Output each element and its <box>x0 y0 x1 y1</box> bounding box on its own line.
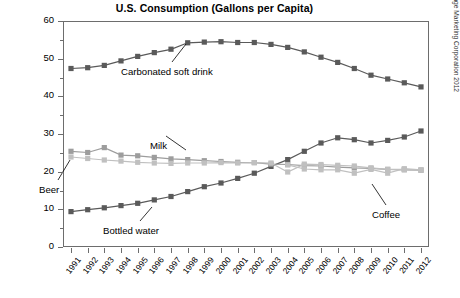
y-axis-minor-tick <box>60 228 63 229</box>
series-annotation: Coffee <box>372 209 400 220</box>
x-axis-tick <box>188 248 189 253</box>
series-annotation: Carbonated soft drink <box>121 66 213 77</box>
series-marker <box>218 180 223 185</box>
series-marker <box>385 76 390 81</box>
series-marker <box>152 160 157 165</box>
series-marker <box>68 154 73 159</box>
series-marker <box>135 54 140 59</box>
series-marker <box>235 160 240 165</box>
y-axis-tick <box>58 21 63 22</box>
x-axis-tick <box>338 248 339 253</box>
series-marker <box>202 40 207 45</box>
series-marker <box>102 157 107 162</box>
series-marker <box>168 156 173 161</box>
series-marker <box>385 171 390 176</box>
y-axis-minor-tick <box>60 153 63 154</box>
series-marker <box>318 55 323 60</box>
annotation-leader-line <box>166 136 186 150</box>
y-axis-label: 10 <box>14 203 54 213</box>
series-marker <box>285 169 290 174</box>
x-axis-tick <box>321 248 322 253</box>
series-annotation: Milk <box>150 140 167 151</box>
annotation-leader-line <box>372 184 386 205</box>
series-marker <box>235 40 240 45</box>
series-marker <box>268 160 273 165</box>
series-marker <box>85 207 90 212</box>
x-axis-tick <box>138 248 139 253</box>
series-marker <box>118 203 123 208</box>
y-axis-minor-tick <box>60 115 63 116</box>
y-axis-label: 0 <box>14 241 54 251</box>
series-marker <box>302 49 307 54</box>
series-marker <box>168 194 173 199</box>
y-axis-label: 40 <box>14 90 54 100</box>
series-marker <box>402 166 407 171</box>
series-marker <box>68 209 73 214</box>
y-axis-minor-tick <box>60 78 63 79</box>
x-axis-tick <box>204 248 205 253</box>
series-marker <box>102 205 107 210</box>
series-marker <box>252 40 257 45</box>
x-axis-tick <box>304 248 305 253</box>
series-marker <box>235 176 240 181</box>
series-marker <box>68 66 73 71</box>
series-marker <box>418 84 423 89</box>
y-axis-tick <box>58 209 63 210</box>
series-marker <box>285 162 290 167</box>
series-marker <box>152 155 157 160</box>
series-marker <box>118 159 123 164</box>
y-axis-label: 60 <box>14 15 54 25</box>
series-marker <box>285 157 290 162</box>
series-marker <box>318 140 323 145</box>
x-axis-tick <box>388 248 389 253</box>
annotation-leader-line <box>58 160 70 180</box>
series-marker <box>352 137 357 142</box>
y-axis-label: 20 <box>14 166 54 176</box>
x-axis-tick <box>104 248 105 253</box>
x-axis-tick <box>254 248 255 253</box>
series-marker <box>368 167 373 172</box>
series-annotation: Beer <box>39 184 59 195</box>
x-axis-tick <box>71 248 72 253</box>
series-marker <box>352 163 357 168</box>
series-marker <box>335 167 340 172</box>
x-axis-tick <box>371 248 372 253</box>
x-axis-tick <box>221 248 222 253</box>
series-marker <box>185 189 190 194</box>
series-marker <box>135 153 140 158</box>
series-marker <box>68 149 73 154</box>
series-marker <box>135 201 140 206</box>
series-marker <box>185 160 190 165</box>
series-marker <box>402 80 407 85</box>
x-axis-tick <box>88 248 89 253</box>
series-line <box>71 42 421 87</box>
x-axis-tick <box>271 248 272 253</box>
series-marker <box>85 156 90 161</box>
series-marker <box>318 162 323 167</box>
annotation-leader-line <box>140 207 152 221</box>
series-marker <box>102 63 107 68</box>
series-marker <box>102 145 107 150</box>
y-axis-minor-tick <box>60 191 63 192</box>
source-note: Source: Beverage Marketing Corporation 2… <box>453 0 460 92</box>
y-axis-minor-tick <box>60 40 63 41</box>
series-annotation: Bottled water <box>103 225 159 236</box>
x-axis-tick <box>421 248 422 253</box>
x-axis-tick <box>354 248 355 253</box>
series-marker <box>285 45 290 50</box>
series-marker <box>352 66 357 71</box>
series-marker <box>302 162 307 167</box>
series-marker <box>368 73 373 78</box>
series-marker <box>318 167 323 172</box>
y-axis-tick <box>58 172 63 173</box>
series-marker <box>385 138 390 143</box>
series-marker <box>352 171 357 176</box>
x-axis-tick <box>288 248 289 253</box>
series-marker <box>85 65 90 70</box>
series-marker <box>152 50 157 55</box>
series-marker <box>335 163 340 168</box>
series-marker <box>268 42 273 47</box>
y-axis-tick <box>58 96 63 97</box>
